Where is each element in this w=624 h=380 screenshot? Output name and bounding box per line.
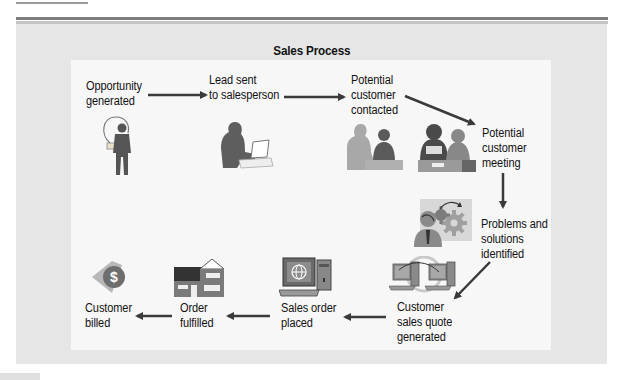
two-people-talking-icon [345,122,403,172]
thinking-gears-icon [414,199,472,247]
networked-computers-icon [389,256,459,294]
person-laptop-icon [215,120,275,170]
arrow-problems-to-quote [455,262,490,298]
arrow-contacted-to-meeting [405,96,474,124]
step-label-lead: Lead sent to salesperson [209,73,279,103]
house-icon [174,259,224,299]
meeting-people-icon [418,122,476,172]
step-label-meeting: Potential customer meeting [482,126,527,171]
step-label-quote: Customer sales quote generated [397,300,452,345]
step-label-opportunity: Opportunity generated [86,79,142,109]
step-label-billed: Customer billed [85,301,132,331]
step-label-order: Sales order placed [281,301,336,331]
lightbulb-person-icon [100,115,140,177]
step-label-fulfilled: Order fulfilled [180,301,213,331]
web-computer-icon [279,256,333,298]
step-label-problems: Problems and solutions identified [481,217,548,262]
svg-text:$: $ [110,269,118,285]
step-label-contacted: Potential customer contacted [351,73,398,118]
dollar-coin-icon: $ [92,259,128,295]
